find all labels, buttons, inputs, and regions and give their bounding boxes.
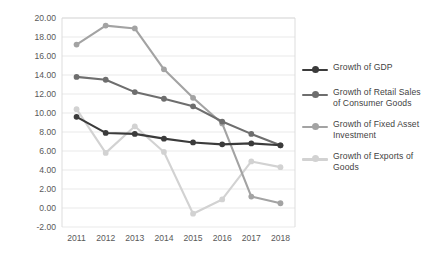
series-point <box>161 66 167 72</box>
y-axis-tick-label: 16.00 <box>34 51 56 61</box>
legend-marker-fixed-asset <box>302 121 328 133</box>
plot-area: 20.0018.0016.0014.0012.0010.008.006.004.… <box>0 0 300 263</box>
series-point <box>132 26 138 32</box>
y-axis-tick-label: 4.00 <box>39 165 56 175</box>
series-point <box>190 211 196 217</box>
series-point <box>132 123 138 129</box>
series-point <box>161 96 167 102</box>
y-axis-tick-label: 10.00 <box>34 108 56 118</box>
series-point <box>103 130 109 136</box>
legend-dot-exports <box>312 155 319 162</box>
chart-canvas: 20.0018.0016.0014.0012.0010.008.006.004.… <box>0 0 300 263</box>
series-point <box>248 194 254 200</box>
x-axis-tick-label: 2018 <box>271 233 290 243</box>
series-point <box>132 131 138 137</box>
legend-label-gdp: Growth of GDP <box>333 62 393 73</box>
series-point <box>248 159 254 165</box>
series-point <box>103 77 109 83</box>
series-point <box>74 74 80 80</box>
legend-label-exports: Growth of Exports of Goods <box>333 151 430 172</box>
legend-marker-gdp <box>302 64 328 76</box>
series-point <box>161 136 167 142</box>
legend-item-fixed-asset[interactable]: Growth of Fixed Asset Investment <box>302 119 430 140</box>
y-axis-tick-label: -2.00 <box>36 222 56 232</box>
series-point <box>103 150 109 156</box>
y-axis-tick-label: 6.00 <box>39 146 56 156</box>
series-point <box>278 200 284 206</box>
y-axis-tick-label: 2.00 <box>39 184 56 194</box>
legend-marker-exports <box>302 153 328 165</box>
legend-dot-gdp <box>312 66 319 73</box>
series-point <box>74 42 80 48</box>
series-point <box>190 140 196 146</box>
chart-legend: Growth of GDP Growth of Retail Sales of … <box>302 62 430 184</box>
series-point <box>278 164 284 170</box>
legend-item-gdp[interactable]: Growth of GDP <box>302 62 430 76</box>
legend-dot-fixed-asset <box>312 123 319 130</box>
series-point <box>219 141 225 147</box>
legend-marker-retail <box>302 89 328 101</box>
x-axis-tick-label: 2012 <box>96 233 115 243</box>
x-axis-tick-label: 2011 <box>67 233 86 243</box>
series-point <box>219 197 225 203</box>
y-axis-tick-label: 0.00 <box>39 203 56 213</box>
legend-label-fixed-asset: Growth of Fixed Asset Investment <box>333 119 430 140</box>
y-axis-tick-label: 8.00 <box>39 127 56 137</box>
series-point <box>74 106 80 112</box>
legend-item-exports[interactable]: Growth of Exports of Goods <box>302 151 430 172</box>
legend-dot-retail <box>312 91 319 98</box>
x-axis-tick-label: 2016 <box>213 233 232 243</box>
legend-item-retail[interactable]: Growth of Retail Sales of Consumer Goods <box>302 87 430 108</box>
y-axis-tick-label: 14.00 <box>34 70 56 80</box>
series-point <box>161 149 167 155</box>
x-axis-tick-label: 2015 <box>184 233 203 243</box>
series-point <box>248 141 254 147</box>
series-point <box>74 114 80 120</box>
y-axis-tick-label: 12.00 <box>34 89 56 99</box>
series-point <box>190 103 196 109</box>
series-line <box>77 26 281 204</box>
legend-label-retail: Growth of Retail Sales of Consumer Goods <box>333 87 430 108</box>
y-axis-tick-label: 20.00 <box>34 13 56 23</box>
series-point <box>278 142 284 148</box>
series-point <box>190 95 196 101</box>
series-point <box>132 89 138 95</box>
line-chart: 20.0018.0016.0014.0012.0010.008.006.004.… <box>0 0 430 263</box>
y-axis-tick-label: 18.00 <box>34 32 56 42</box>
series-point <box>248 131 254 137</box>
x-axis-tick-label: 2013 <box>125 233 144 243</box>
series-point <box>103 23 109 29</box>
series-point <box>219 119 225 125</box>
x-axis-tick-label: 2017 <box>242 233 261 243</box>
x-axis-tick-label: 2014 <box>154 233 173 243</box>
